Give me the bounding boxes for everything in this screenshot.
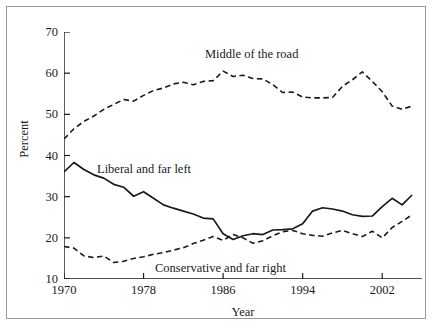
series-line-0 bbox=[64, 71, 412, 139]
chart-figure: 70605040302010 19701978198619942002 Year… bbox=[0, 0, 433, 327]
y-axis-tick-label: 50 bbox=[32, 108, 58, 120]
series-label-middle-of-the-road: Middle of the road bbox=[205, 47, 298, 61]
y-axis-tick-label: 20 bbox=[32, 232, 58, 244]
plot-area bbox=[64, 32, 422, 279]
x-axis-tick-label: 2002 bbox=[370, 284, 395, 297]
x-axis-tick-label: 1970 bbox=[52, 284, 77, 297]
y-axis-tick-label: 60 bbox=[32, 67, 58, 79]
y-axis-tick-label: 40 bbox=[32, 150, 58, 162]
series-line-2 bbox=[64, 215, 412, 263]
x-axis-title: Year bbox=[64, 305, 422, 319]
figure-frame: 70605040302010 19701978198619942002 Year… bbox=[6, 6, 426, 319]
x-axis-tick-label: 1978 bbox=[131, 284, 156, 297]
chart-canvas bbox=[64, 32, 422, 279]
series-label-liberal-and-far-left: Liberal and far left bbox=[97, 162, 191, 176]
series-label-conservative-and-far-right: Conservative and far right bbox=[155, 261, 286, 275]
x-axis-tick-labels: 19701978198619942002 bbox=[64, 284, 422, 302]
x-axis-tick-label: 1986 bbox=[211, 284, 236, 297]
y-axis-tick-label: 30 bbox=[32, 191, 58, 203]
x-axis-tick-label: 1994 bbox=[290, 284, 315, 297]
y-axis-tick-label: 70 bbox=[32, 26, 58, 38]
y-axis-title: Percent bbox=[17, 89, 31, 189]
y-axis-tick-labels: 70605040302010 bbox=[30, 32, 58, 279]
